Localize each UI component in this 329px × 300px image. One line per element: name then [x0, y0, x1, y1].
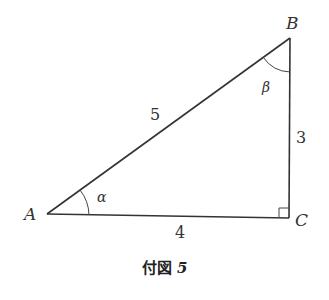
side-ac: [47, 214, 289, 218]
side-bc: [289, 38, 290, 218]
caption-prefix: 付図: [142, 259, 172, 277]
side-label-bc: 3: [296, 128, 306, 147]
angle-arc-a: [80, 190, 89, 215]
caption-number: 5: [177, 259, 187, 277]
angle-arc-b: [263, 57, 290, 72]
side-ab: [47, 38, 290, 214]
right-angle-marker: [279, 208, 289, 218]
angle-label-beta: β: [261, 79, 270, 95]
angle-label-alpha: α: [97, 189, 107, 205]
vertex-label-c: C: [295, 210, 308, 230]
figure-caption: 付図 5: [0, 256, 329, 277]
vertex-label-b: B: [285, 13, 299, 33]
vertex-label-a: A: [22, 204, 36, 224]
side-label-ab: 5: [150, 105, 160, 124]
triangle-diagram: A B C 5 3 4 α β: [0, 0, 329, 300]
triangle: [47, 38, 290, 218]
side-label-ac: 4: [175, 223, 185, 242]
